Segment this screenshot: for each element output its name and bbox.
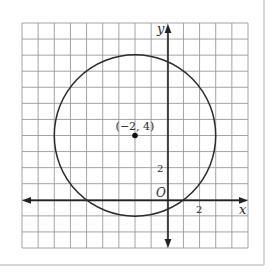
center-point <box>132 133 138 139</box>
y-tick-label-2: 2 <box>157 163 163 174</box>
x-tick-label-2: 2 <box>196 204 202 215</box>
center-point-label: (−2, 4) <box>116 120 155 133</box>
y-axis <box>165 24 172 248</box>
graph-canvas: (−2, 4) y x O 2 2 <box>0 0 274 275</box>
y-axis-label: y <box>156 21 165 36</box>
x-axis-label: x <box>239 202 247 217</box>
coordinate-figure: (−2, 4) y x O 2 2 <box>0 0 274 275</box>
origin-label: O <box>156 186 166 200</box>
